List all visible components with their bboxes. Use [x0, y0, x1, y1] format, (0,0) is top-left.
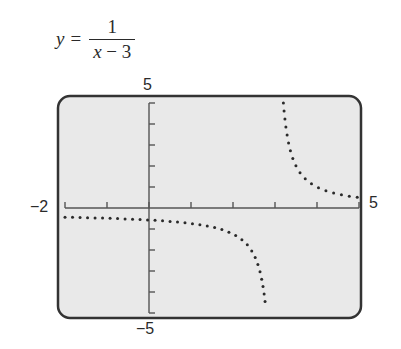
calculator-screen-plot: [0, 0, 401, 349]
screen-frame: [58, 96, 361, 318]
xmax-label: 5: [369, 194, 378, 212]
xmin-label: −2: [30, 198, 48, 216]
ymin-label: −5: [136, 320, 154, 338]
ymax-label: 5: [143, 76, 152, 94]
